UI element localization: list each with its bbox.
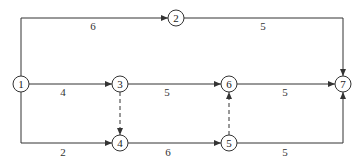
edge-1-4 [21,92,112,143]
svg-text:7: 7 [340,78,346,90]
svg-text:5: 5 [226,137,232,149]
node-4: 4 [112,135,128,151]
edge-label-4-5: 6 [165,146,171,158]
edge-label-1-2: 6 [90,20,96,32]
node-5: 5 [221,135,237,151]
edge-label-3-6: 5 [164,86,170,98]
edge-5-7 [237,92,343,143]
svg-text:3: 3 [117,78,123,90]
edge-label-1-4: 2 [60,146,66,158]
node-1: 1 [13,76,29,92]
svg-text:2: 2 [173,12,179,24]
node-3: 3 [112,76,128,92]
edge-label-2-7: 5 [260,20,266,32]
svg-text:4: 4 [117,137,123,149]
edge-label-5-7: 5 [282,146,288,158]
node-7: 7 [335,76,351,92]
node-2: 2 [168,10,184,26]
svg-text:6: 6 [226,78,232,90]
svg-text:1: 1 [18,78,24,90]
node-6: 6 [221,76,237,92]
edge-label-6-7: 5 [282,86,288,98]
network-diagram: 6 5 4 5 5 2 6 5 1 2 3 4 5 6 7 [0,0,360,168]
edge-label-1-3: 4 [60,86,66,98]
